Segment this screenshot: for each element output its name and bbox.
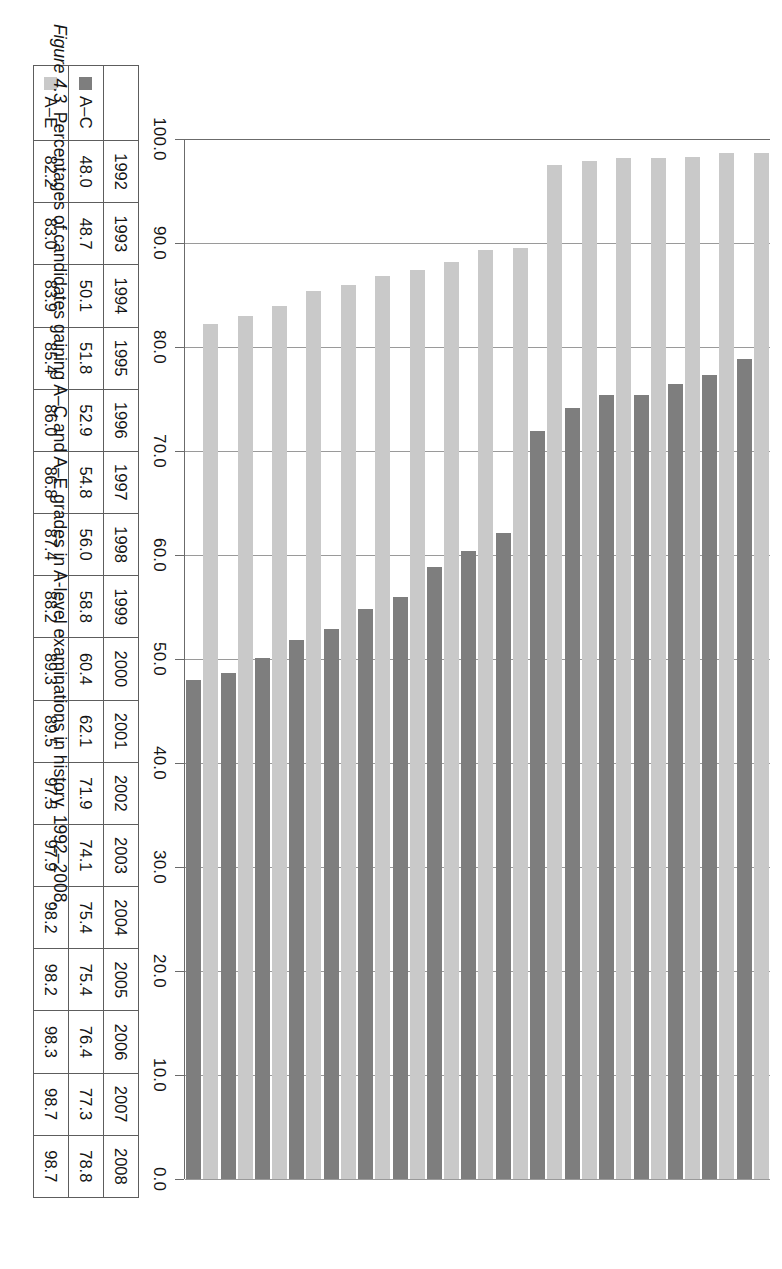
gridline <box>185 243 770 244</box>
legend-swatch-ac-icon <box>80 77 93 90</box>
axis-tick <box>175 1075 184 1076</box>
axis-tick <box>175 555 184 556</box>
axis-tick <box>175 1179 184 1180</box>
bar-ac <box>737 359 752 1179</box>
value-axis-line <box>184 139 185 1179</box>
axis-tick <box>175 347 184 348</box>
table-cell-ac: 51.8 <box>69 327 104 389</box>
bar-ae <box>754 153 769 1179</box>
bar-ac <box>358 609 373 1179</box>
axis-tick-label: 60.0 <box>149 520 169 590</box>
axis-tick-label: 30.0 <box>149 832 169 902</box>
table-cell-ac: 71.9 <box>69 762 104 824</box>
axis-tick <box>175 659 184 660</box>
table-cell-year: 2002 <box>104 762 139 824</box>
table-cell-ac: 52.9 <box>69 389 104 451</box>
bar-ac <box>496 533 511 1179</box>
axis-tick-label: 40.0 <box>149 728 169 798</box>
bar-ae <box>203 324 218 1179</box>
bar-ac <box>255 658 270 1179</box>
table-cell-year: 2008 <box>104 1135 139 1197</box>
table-cell-year: 2001 <box>104 700 139 762</box>
bar-ae <box>616 158 631 1179</box>
axis-tick <box>175 763 184 764</box>
gridline <box>185 139 770 140</box>
bar-ae <box>272 306 287 1179</box>
axis-tick-label: 50.0 <box>149 624 169 694</box>
bar-ae <box>341 285 356 1179</box>
bar-ac <box>702 375 717 1179</box>
bar-ae <box>478 250 493 1179</box>
axis-tick-label: 10.0 <box>149 1040 169 1110</box>
bar-ac <box>461 551 476 1179</box>
table-cell-year: 2000 <box>104 638 139 700</box>
table-cell-year: 2004 <box>104 887 139 949</box>
table-cell-year: 1994 <box>104 265 139 327</box>
bar-ac <box>565 408 580 1179</box>
bar-ac <box>634 395 649 1179</box>
figure-caption-text: Percentages of candidates gaining A–C an… <box>50 112 70 907</box>
bar-ae <box>306 291 321 1179</box>
table-cell-ac: 76.4 <box>69 1011 104 1073</box>
table-cell-year: 2005 <box>104 949 139 1011</box>
axis-tick-label: 0.0 <box>149 1144 169 1214</box>
table-cell-ac: 54.8 <box>69 451 104 513</box>
axis-tick <box>175 139 184 140</box>
bar-ac <box>668 384 683 1179</box>
table-cell-year: 1996 <box>104 389 139 451</box>
bar-ae <box>547 165 562 1179</box>
bar-ac <box>289 640 304 1179</box>
rotated-figure-frame: 100.090.080.070.060.050.040.030.020.010.… <box>0 0 782 1269</box>
bar-ac <box>324 629 339 1179</box>
table-cell-ac: 48.7 <box>69 203 104 265</box>
table-cell-year: 1999 <box>104 576 139 638</box>
bar-ae <box>685 157 700 1179</box>
table-cell-ac: 77.3 <box>69 1073 104 1135</box>
axis-tick <box>175 867 184 868</box>
axis-tick-label: 20.0 <box>149 936 169 1006</box>
table-cell-year: 2007 <box>104 1073 139 1135</box>
axis-tick <box>175 451 184 452</box>
table-cell-year: 2006 <box>104 1011 139 1073</box>
table-cell-ac: 78.8 <box>69 1135 104 1197</box>
bar-ae <box>582 161 597 1179</box>
figure-container: 100.090.080.070.060.050.040.030.020.010.… <box>0 0 782 1269</box>
table-row-ac: A–C 48.048.750.151.852.954.856.058.860.4… <box>69 66 104 1198</box>
table-cell-ac: 48.0 <box>69 141 104 203</box>
gridline <box>185 1179 770 1180</box>
legend-label-ac: A–C <box>77 96 96 129</box>
legend-cell-ac: A–C <box>69 66 104 141</box>
bar-ac <box>221 673 236 1179</box>
axis-tick-label: 70.0 <box>149 416 169 486</box>
bar-ae <box>375 276 390 1179</box>
table-cell-ac: 74.1 <box>69 824 104 886</box>
table-row-years: 1992199319941995199619971998199920002001… <box>104 66 139 1198</box>
bar-ae <box>444 262 459 1179</box>
axis-tick-label: 80.0 <box>149 312 169 382</box>
table-cell-year: 1992 <box>104 141 139 203</box>
bar-ac <box>427 567 442 1179</box>
axis-tick-label: 100.0 <box>149 104 169 174</box>
bar-ae <box>410 270 425 1179</box>
table-cell-ac: 60.4 <box>69 638 104 700</box>
figure-number: Figure 4.3 <box>50 24 70 103</box>
bar-ae <box>238 316 253 1179</box>
table-cell-year: 1993 <box>104 203 139 265</box>
axis-tick <box>175 971 184 972</box>
table-cell-ac: 75.4 <box>69 949 104 1011</box>
table-cell-ac: 75.4 <box>69 887 104 949</box>
table-cell-year: 1995 <box>104 327 139 389</box>
table-corner-blank <box>104 66 139 141</box>
bar-chart-plot <box>185 139 770 1179</box>
axis-tick-label: 90.0 <box>149 208 169 278</box>
bar-ae <box>719 153 734 1179</box>
bar-ae <box>651 158 666 1179</box>
bar-ac <box>186 680 201 1179</box>
plot-area <box>185 139 770 1179</box>
table-cell-ac: 50.1 <box>69 265 104 327</box>
table-cell-ac: 62.1 <box>69 700 104 762</box>
axis-tick <box>175 243 184 244</box>
table-cell-year: 1997 <box>104 451 139 513</box>
table-cell-ac: 58.8 <box>69 576 104 638</box>
figure-caption: Figure 4.3Percentages of candidates gain… <box>49 24 70 1239</box>
